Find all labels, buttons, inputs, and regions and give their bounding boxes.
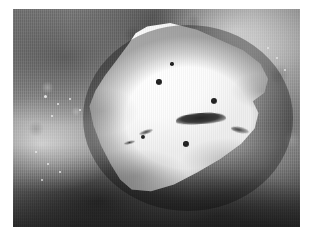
highlight-right-1 xyxy=(267,47,270,50)
highlight-left-3 xyxy=(69,98,71,100)
specimen-photograph xyxy=(13,9,300,227)
focus-upper-left xyxy=(156,79,162,85)
focus-upper-mid xyxy=(170,62,173,65)
highlight-left-8 xyxy=(59,171,61,173)
highlight-left-9 xyxy=(41,179,43,181)
highlight-left-1 xyxy=(44,95,47,98)
highlight-left-2 xyxy=(57,103,59,105)
screenshot-canvas: Grayscale close-up photograph of a secti… xyxy=(0,0,312,237)
highlight-left-5 xyxy=(79,109,81,111)
highlight-left-6 xyxy=(35,151,37,153)
highlight-right-3 xyxy=(284,69,286,71)
cut-surface-texture xyxy=(78,23,270,193)
highlight-left-7 xyxy=(47,163,50,166)
focus-lower-mid xyxy=(183,141,188,146)
highlight-right-2 xyxy=(276,57,278,59)
highlight-left-4 xyxy=(51,115,54,118)
